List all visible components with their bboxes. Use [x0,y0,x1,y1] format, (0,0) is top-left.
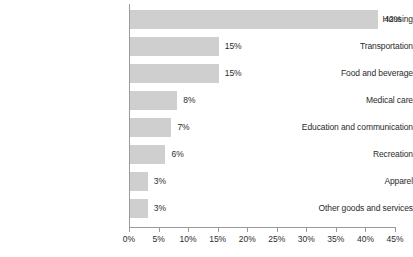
x-axis-line [129,227,396,228]
x-tick-10 [188,228,189,232]
value-label-transportation: 15% [225,37,242,56]
x-tick-5 [159,228,160,232]
category-label-other-goods-and-services: Other goods and services [289,199,413,218]
value-label-food-and-beverage: 15% [225,64,242,83]
category-label-education-and-communication: Education and communication [289,118,413,137]
value-label-education-and-communication: 7% [177,118,189,137]
x-tick-35 [336,228,337,232]
x-tick-45 [395,228,396,232]
x-tick-20 [247,228,248,232]
x-tick-30 [306,228,307,232]
value-label-medical-care: 8% [183,91,195,110]
horizontal-bar-chart: Housing Transportation Food and beverage… [0,0,413,257]
x-tick-label-35: 35% [327,234,344,245]
x-tick-label-40: 40% [357,234,374,245]
value-label-apparel: 3% [154,172,166,191]
x-tick-label-45: 45% [386,234,403,245]
bar-food-and-beverage [130,64,219,83]
y-axis-line [129,4,130,228]
x-tick-0 [129,228,130,232]
category-label-apparel: Apparel [289,172,413,191]
category-label-food-and-beverage: Food and beverage [289,64,413,83]
bar-education-and-communication [130,118,171,137]
value-label-housing: 42% [384,10,401,29]
bar-transportation [130,37,219,56]
category-label-transportation: Transportation [289,37,413,56]
x-tick-label-0: 0% [123,234,135,245]
value-label-other-goods-and-services: 3% [154,199,166,218]
bar-other-goods-and-services [130,199,148,218]
bar-apparel [130,172,148,191]
category-label-recreation: Recreation [289,145,413,164]
x-tick-25 [277,228,278,232]
x-tick-label-25: 25% [268,234,285,245]
value-label-recreation: 6% [171,145,183,164]
category-label-medical-care: Medical care [289,91,413,110]
bar-medical-care [130,91,177,110]
x-tick-40 [365,228,366,232]
bar-housing [130,10,378,29]
x-tick-label-20: 20% [239,234,256,245]
x-tick-label-30: 30% [298,234,315,245]
x-tick-15 [218,228,219,232]
x-tick-label-10: 10% [180,234,197,245]
x-tick-label-15: 15% [209,234,226,245]
x-tick-label-5: 5% [152,234,164,245]
bar-recreation [130,145,165,164]
